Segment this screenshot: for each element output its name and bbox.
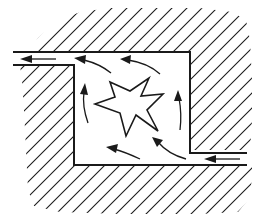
circulation-arrow-bottom-right-icon — [152, 137, 186, 159]
hatch-line — [0, 0, 60, 220]
circulation-arrow-top-right-icon — [120, 55, 160, 74]
cavity-flow-diagram — [0, 0, 258, 220]
hatch-line — [160, 0, 258, 220]
circulation-arrow-top-left-icon — [74, 55, 111, 73]
hatch-line — [0, 0, 210, 220]
explosion-star-icon — [95, 78, 163, 136]
hatch-line — [130, 0, 258, 220]
hatch-line — [220, 0, 258, 220]
hatch-line — [160, 0, 258, 220]
outlet-arrow-icon — [20, 55, 56, 63]
hatch-line — [0, 0, 90, 220]
hatch-line — [250, 0, 258, 220]
hatch-line — [130, 0, 258, 220]
hatch-line — [0, 0, 180, 220]
hatch-line — [0, 0, 15, 220]
inlet-arrow-icon — [204, 155, 240, 163]
hatch-line — [55, 0, 258, 220]
hatch-line — [55, 0, 258, 220]
hatch-line — [0, 0, 90, 220]
circulation-arrow-left-icon — [80, 83, 88, 123]
hatch-line — [235, 0, 258, 220]
hatch-line — [0, 0, 210, 220]
circulation-arrow-right-icon — [174, 90, 182, 130]
hatch-line — [0, 0, 180, 220]
circulation-arrow-bottom-left-icon — [106, 144, 140, 159]
hatch-line — [0, 0, 60, 220]
hatch-line — [220, 0, 258, 220]
hatch-line — [0, 0, 15, 220]
hatch-line — [250, 0, 258, 220]
hatch-line — [235, 0, 258, 220]
